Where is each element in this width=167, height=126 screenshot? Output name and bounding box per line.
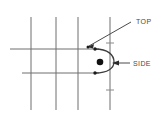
- center-point: [97, 59, 104, 66]
- technical-sketch: TOP SIDE: [0, 0, 167, 126]
- side-leader: [112, 61, 130, 66]
- diagram-canvas: TOP SIDE: [0, 0, 167, 126]
- top-leader-dot: [87, 46, 90, 49]
- grid-horizontal-lines: [10, 49, 99, 73]
- curve-dot-top: [93, 47, 96, 50]
- label-top: TOP: [136, 18, 151, 25]
- top-leader: [87, 22, 132, 49]
- label-side: SIDE: [133, 60, 151, 67]
- curve-dot-bottom: [93, 71, 96, 74]
